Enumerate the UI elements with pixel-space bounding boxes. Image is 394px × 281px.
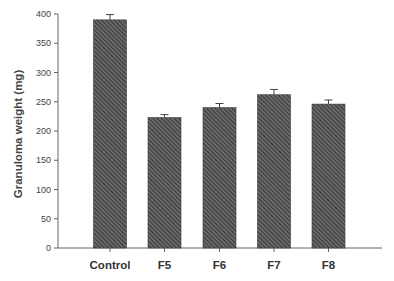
x-tick-label: F5 [158, 259, 172, 271]
y-tick-label: 100 [36, 185, 51, 195]
y-tick-label: 400 [36, 9, 51, 19]
y-axis: 050100150200250300350400 [36, 9, 58, 253]
x-tick-label: F8 [322, 259, 336, 271]
bar [203, 108, 236, 248]
bar-f5 [148, 115, 181, 248]
y-tick-label: 150 [36, 155, 51, 165]
bar [94, 20, 127, 248]
bar-f6 [203, 104, 236, 248]
bar [258, 95, 291, 248]
bar-chart: Granuloma weight (mg) 050100150200250300… [0, 0, 394, 281]
bar-control [94, 15, 127, 248]
bar-f7 [258, 89, 291, 248]
y-tick-label: 250 [36, 97, 51, 107]
y-tick-label: 350 [36, 38, 51, 48]
x-tick-label: Control [90, 259, 131, 271]
x-axis [58, 248, 382, 252]
bar-f8 [312, 100, 345, 248]
bar [148, 118, 181, 248]
bar [312, 104, 345, 248]
y-tick-label: 0 [46, 243, 51, 253]
y-tick-label: 50 [41, 214, 51, 224]
y-tick-label: 200 [36, 126, 51, 136]
x-tick-label: F7 [267, 259, 280, 271]
y-tick-label: 300 [36, 68, 51, 78]
x-tick-label: F6 [213, 259, 226, 271]
y-axis-title: Granuloma weight (mg) [12, 70, 24, 199]
x-tick-labels: ControlF5F6F7F8 [90, 259, 336, 271]
bar-series [94, 15, 346, 248]
